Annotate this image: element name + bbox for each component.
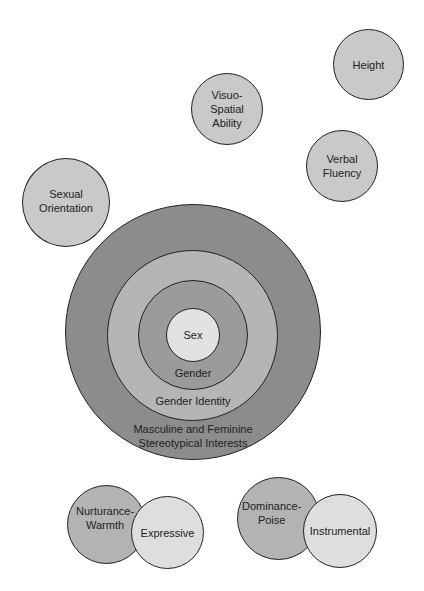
circle-visuo-spatial-ability: Visuo- Spatial Ability (191, 73, 263, 145)
label-gender-identity: Gender Identity (0, 394, 405, 408)
core-sex: Sex (166, 308, 220, 362)
label-sex: Sex (184, 328, 203, 342)
label-gender: Gender (0, 366, 405, 380)
circle-sexual-orientation: Sexual Orientation (22, 158, 110, 247)
circle-expressive: Expressive (131, 496, 204, 569)
circle-instrumental: Instrumental (303, 494, 377, 568)
label-stereotypical-interests: Masculine and Feminine Stereotypical Int… (0, 422, 405, 450)
circle-height: Height (333, 29, 404, 100)
circle-verbal-fluency: Verbal Fluency (306, 130, 378, 202)
